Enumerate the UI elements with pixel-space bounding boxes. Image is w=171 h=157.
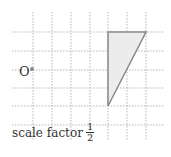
center-point-o (30, 67, 34, 71)
fraction: 1 2 (86, 122, 94, 143)
caption-text: scale factor (12, 126, 83, 140)
triangle-shape (108, 32, 146, 106)
center-label: O (19, 64, 30, 79)
scale-factor-caption: scale factor 1 2 (12, 122, 94, 143)
fraction-denominator: 2 (87, 133, 93, 143)
